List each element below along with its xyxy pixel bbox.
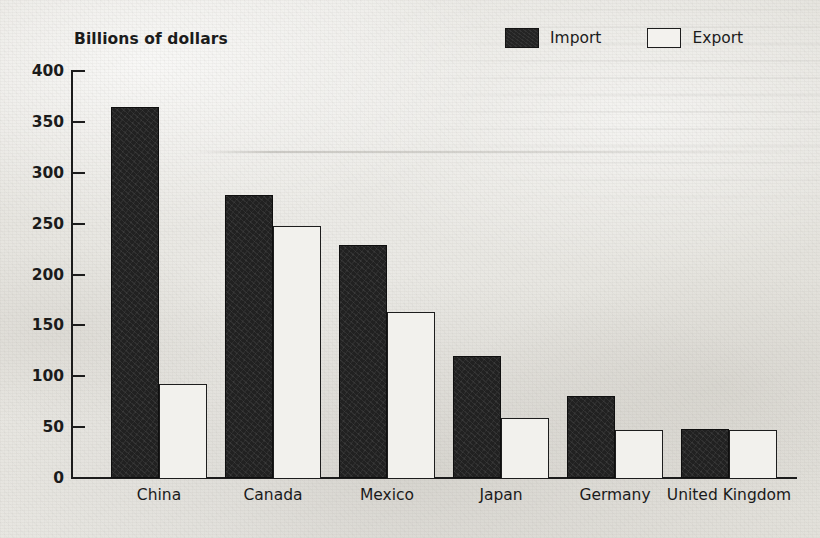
chart-legend: Import Export [505,28,743,48]
y-axis-tick-label-250: 250 [12,215,64,233]
bar-group [225,195,321,478]
y-axis-tick-label-200: 200 [12,266,64,284]
hollow-square-icon [647,28,681,48]
bar-import [567,396,615,478]
x-axis-label-china: China [137,486,181,504]
bar-group [111,107,207,478]
bar-import [111,107,159,478]
y-axis-tick-label-0: 0 [12,469,64,487]
scanned-page: Billions of dollars Import Export 050100… [0,0,820,538]
bar-import [681,429,729,478]
bar-group [339,245,435,478]
filled-square-icon [505,28,539,48]
grouped-bar-chart: Billions of dollars Import Export 050100… [0,0,820,538]
x-axis-label-united-kingdom: United Kingdom [667,486,791,504]
bar-export [501,418,549,478]
y-axis-title: Billions of dollars [74,30,228,48]
y-axis-tick-label-400: 400 [12,62,64,80]
y-axis-tick-labels: 050100150200250300350400 [8,0,64,538]
bar-export [387,312,435,478]
bar-group [453,356,549,478]
legend-item-export: Export [647,28,743,48]
y-axis-tick-label-350: 350 [12,113,64,131]
bar-export [159,384,207,478]
x-axis-label-japan: Japan [479,486,522,504]
bar-export [615,430,663,478]
bar-group [567,396,663,478]
plot-area [71,71,797,478]
bar-import [453,356,501,478]
bar-import [339,245,387,478]
bar-import [225,195,273,478]
bar-export [729,430,777,478]
legend-item-import: Import [505,28,601,48]
x-axis-label-germany: Germany [579,486,650,504]
y-axis-tick-label-100: 100 [12,367,64,385]
bar-group [681,429,777,478]
x-axis-label-mexico: Mexico [360,486,414,504]
x-axis-label-canada: Canada [244,486,303,504]
y-axis-tick-label-50: 50 [12,418,64,436]
legend-label-import: Import [550,29,601,47]
legend-label-export: Export [692,29,743,47]
y-axis-tick-label-150: 150 [12,316,64,334]
y-axis-tick-label-300: 300 [12,164,64,182]
bar-export [273,226,321,478]
